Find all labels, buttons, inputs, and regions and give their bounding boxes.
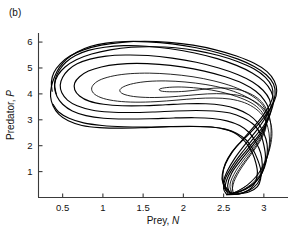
y-tick-layer: 123456 [27, 36, 42, 177]
y-tick-label: 2 [27, 140, 32, 151]
y-tick-label: 4 [27, 88, 32, 99]
trajectory-layer [50, 41, 276, 194]
x-tick-label: 2 [181, 202, 186, 213]
x-tick-label: 2.5 [217, 202, 230, 213]
x-tick-label: 1.5 [137, 202, 150, 213]
y-tick-label: 5 [27, 62, 32, 73]
figure-panel: (b) 0.511.522.53 123456 Prey, N Predator… [0, 0, 296, 232]
trajectory-loop-6 [120, 81, 272, 193]
y-tick-label: 3 [27, 114, 32, 125]
x-axis-label: Prey, N [147, 215, 180, 226]
trajectory-loop-4 [74, 63, 269, 194]
x-tick-label: 1 [100, 202, 105, 213]
phase-plane-chart: 0.511.522.53 123456 Prey, N Predator, P [0, 0, 296, 232]
y-tick-label: 1 [27, 166, 32, 177]
y-axis-label: Predator, P [5, 90, 16, 140]
x-tick-layer: 0.511.522.53 [56, 194, 266, 213]
x-tick-label: 0.5 [56, 202, 69, 213]
trajectory-outer-loop-2 [54, 46, 273, 195]
x-tick-label: 3 [261, 202, 266, 213]
y-tick-label: 6 [27, 36, 32, 47]
